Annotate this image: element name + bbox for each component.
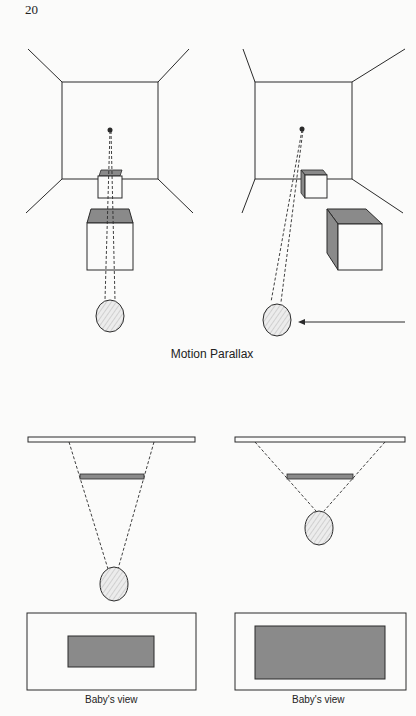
far-box-right [301,170,327,198]
far-box-left [98,170,122,198]
head-left [96,300,124,332]
head-bottom-right [305,511,333,545]
babys-view-label-right: Baby's view [292,694,345,705]
near-box-right [327,209,382,270]
wall-bar-left [28,437,195,442]
target-dot-right [300,127,305,132]
occluder-bar-left [80,474,144,479]
sight-lines-right [271,130,303,302]
head-right [263,304,291,336]
near-box-left [87,209,133,270]
view-occluder-small [68,636,154,667]
motion-arrow-icon [298,319,405,325]
figure-caption-motion-parallax: Motion Parallax [0,347,416,361]
view-occluder-large [255,626,385,679]
head-bottom-left [100,567,128,601]
occluder-bar-right [287,474,353,479]
babys-view-label-left: Baby's view [85,694,138,705]
wall-bar-right [235,437,405,442]
target-dot-left [108,128,113,133]
occlusion-diagram-right [235,437,405,545]
occlusion-diagram-left [28,437,195,601]
babys-view-right [235,613,406,690]
babys-view-left [27,613,196,690]
